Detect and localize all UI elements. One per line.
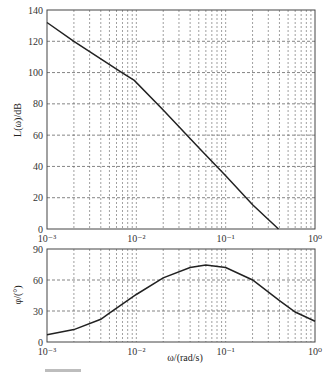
svg-text:140: 140 bbox=[28, 5, 43, 16]
svg-text:80: 80 bbox=[33, 98, 43, 109]
svg-text:10⁰: 10⁰ bbox=[308, 346, 322, 357]
svg-text:100: 100 bbox=[28, 67, 43, 78]
svg-text:60: 60 bbox=[33, 130, 43, 141]
svg-text:10⁻¹: 10⁻¹ bbox=[217, 233, 235, 244]
magnitude-grid bbox=[47, 10, 315, 229]
phase-y-label: φ/(°) bbox=[12, 285, 24, 304]
svg-text:10⁻²: 10⁻² bbox=[127, 233, 145, 244]
magnitude-y-label: L(ω)/dB bbox=[12, 103, 24, 137]
magnitude-plot-frame bbox=[47, 10, 315, 229]
svg-text:60: 60 bbox=[33, 275, 43, 286]
svg-text:120: 120 bbox=[28, 36, 43, 47]
svg-text:40: 40 bbox=[33, 161, 43, 172]
svg-text:10⁻³: 10⁻³ bbox=[38, 233, 56, 244]
magnitude-y-ticks: 140120100806040200 bbox=[28, 5, 43, 235]
svg-text:10⁻²: 10⁻² bbox=[127, 346, 145, 357]
bode-plot: 140120100806040200 9060300 10⁻³10⁻²10⁻¹1… bbox=[0, 0, 326, 378]
svg-text:90: 90 bbox=[33, 244, 43, 255]
svg-text:20: 20 bbox=[33, 192, 43, 203]
phase-y-ticks: 9060300 bbox=[33, 244, 43, 348]
magnitude-x-ticks: 10⁻³10⁻²10⁻¹10⁰ bbox=[38, 233, 322, 244]
svg-text:30: 30 bbox=[33, 306, 43, 317]
x-axis-label: ω/(rad/s) bbox=[167, 352, 202, 364]
phase-curve bbox=[47, 265, 315, 335]
svg-text:10⁰: 10⁰ bbox=[308, 233, 322, 244]
caption-bar bbox=[45, 369, 81, 372]
phase-grid bbox=[47, 249, 315, 342]
svg-text:10⁻¹: 10⁻¹ bbox=[217, 346, 235, 357]
svg-text:10⁻³: 10⁻³ bbox=[38, 346, 56, 357]
phase-plot-frame bbox=[47, 249, 315, 342]
